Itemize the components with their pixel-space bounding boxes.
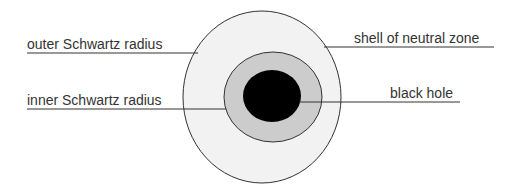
inner-schwartz-radius-label: inner Schwartz radius [27, 92, 162, 108]
shell-of-neutral-zone-label: shell of neutral zone [354, 30, 479, 46]
black-hole-core [243, 70, 301, 122]
outer-schwartz-radius-label: outer Schwartz radius [27, 36, 162, 52]
black-hole-label: black hole [390, 85, 453, 101]
